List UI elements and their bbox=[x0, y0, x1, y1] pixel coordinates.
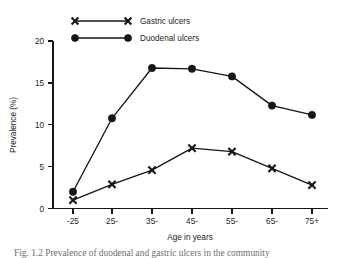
x-axis-title: Age in years bbox=[167, 233, 213, 242]
data-point-duodenal-under-25 bbox=[69, 188, 76, 195]
legend-label-gastric-ulcers: Gastric ulcers bbox=[140, 17, 190, 26]
legend-label-duodenal-ulcers: Duodenal ulcers bbox=[140, 34, 199, 43]
figure-container: Gastric ulcers Duodenal ulcers bbox=[0, 0, 338, 258]
data-point-duodenal-35 bbox=[148, 64, 155, 71]
y-tick-label-5: 5 bbox=[39, 163, 44, 172]
series-duodenal-ulcers bbox=[69, 64, 315, 195]
x-tick-label-65: 65- bbox=[266, 217, 278, 226]
y-axis-ticks bbox=[48, 41, 54, 209]
x-tick-label-25: 25- bbox=[106, 217, 118, 226]
x-tick-label-35: 35- bbox=[146, 217, 158, 226]
figure-caption: Fig. 1.2 Prevalence of duodenal and gast… bbox=[14, 248, 270, 258]
series-gastric-ulcers bbox=[69, 145, 315, 204]
legend-marker-dot-duodenal-right bbox=[124, 34, 131, 41]
data-point-gastric-under-25 bbox=[69, 197, 76, 204]
data-point-duodenal-55 bbox=[228, 73, 235, 80]
x-tick-label-55: 55- bbox=[226, 217, 238, 226]
data-point-gastric-25 bbox=[108, 181, 115, 188]
y-tick-label-10: 10 bbox=[35, 121, 45, 130]
x-axis-ticks bbox=[73, 209, 312, 215]
data-point-gastric-75-plus bbox=[308, 182, 315, 189]
data-point-duodenal-45 bbox=[188, 65, 195, 72]
y-tick-label-20: 20 bbox=[35, 37, 45, 46]
series-line-gastric bbox=[73, 148, 312, 200]
x-axis-tick-labels: -25 25- 35- 45- 55- 65- 75+ bbox=[67, 217, 319, 226]
data-point-gastric-65 bbox=[268, 165, 275, 172]
legend-marker-dot-duodenal-left bbox=[71, 34, 78, 41]
data-point-duodenal-65 bbox=[268, 102, 275, 109]
y-axis-tick-labels: 20 15 10 5 0 bbox=[35, 37, 45, 214]
prevalence-line-chart: Gastric ulcers Duodenal ulcers bbox=[0, 0, 338, 258]
x-tick-label-75-plus: 75+ bbox=[305, 217, 319, 226]
x-tick-label-under-25: -25 bbox=[67, 217, 79, 226]
x-tick-label-45: 45- bbox=[186, 217, 198, 226]
series-line-duodenal bbox=[73, 68, 312, 192]
y-axis-title: Prevalence (%) bbox=[9, 97, 18, 153]
data-point-duodenal-25 bbox=[108, 115, 115, 122]
y-tick-label-15: 15 bbox=[35, 79, 45, 88]
data-point-gastric-35 bbox=[148, 167, 155, 174]
legend-item-duodenal-ulcers: Duodenal ulcers bbox=[71, 34, 199, 43]
y-tick-label-0: 0 bbox=[39, 205, 44, 214]
data-point-duodenal-75-plus bbox=[308, 111, 315, 118]
legend-item-gastric-ulcers: Gastric ulcers bbox=[72, 17, 190, 26]
chart-legend: Gastric ulcers Duodenal ulcers bbox=[71, 17, 199, 43]
